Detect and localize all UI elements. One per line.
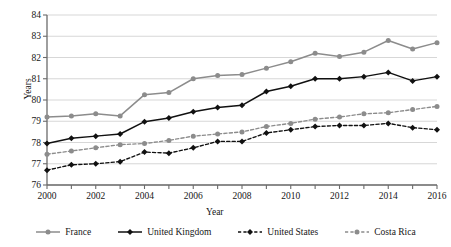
- x-tick-label: 2014: [368, 191, 408, 201]
- legend-label: United Kingdom: [147, 227, 211, 237]
- y-tick-label: 77: [19, 159, 41, 169]
- x-tick-label: 2008: [222, 191, 262, 201]
- x-tick-label: 2016: [417, 191, 451, 201]
- legend-item-france[interactable]: France: [35, 227, 91, 237]
- legend-item-united-kingdom[interactable]: United Kingdom: [117, 227, 211, 237]
- series-united-kingdom: [44, 69, 440, 146]
- legend-item-costa-rica[interactable]: Costa Rica: [344, 227, 415, 237]
- y-tick-label: 84: [19, 10, 41, 20]
- legend-circle-marker-icon: [344, 227, 370, 237]
- chart-canvas: [0, 0, 451, 247]
- legend-label: Costa Rica: [374, 227, 415, 237]
- x-tick-label: 2000: [27, 191, 67, 201]
- x-tick-label: 2004: [125, 191, 165, 201]
- x-tick-label: 2006: [173, 191, 213, 201]
- legend-label: United States: [267, 227, 318, 237]
- y-axis-title: Years: [23, 59, 33, 119]
- x-axis-title: Year: [206, 207, 224, 217]
- gridlines-group: [47, 15, 437, 185]
- x-tick-label: 2002: [76, 191, 116, 201]
- legend-diamond-marker-icon: [117, 227, 143, 237]
- legend-circle-marker-icon: [35, 227, 61, 237]
- data-series-group: [44, 38, 440, 173]
- legend-diamond-marker-icon: [237, 227, 263, 237]
- series-costa-rica: [45, 104, 440, 157]
- y-tick-label: 78: [19, 138, 41, 148]
- y-tick-label: 83: [19, 31, 41, 41]
- x-tick-label: 2010: [271, 191, 311, 201]
- x-tick-label: 2012: [320, 191, 360, 201]
- legend-label: France: [65, 227, 91, 237]
- y-tick-label: 76: [19, 180, 41, 190]
- line-chart-figure: 848382818079787776 200020022004200620082…: [0, 0, 451, 247]
- chart-legend: FranceUnited KingdomUnited StatesCosta R…: [0, 222, 451, 242]
- legend-item-united-states[interactable]: United States: [237, 227, 318, 237]
